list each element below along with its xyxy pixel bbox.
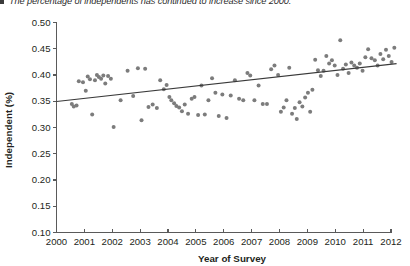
data-point (284, 98, 288, 102)
data-point (335, 73, 339, 77)
data-point (77, 79, 81, 83)
data-point (265, 102, 269, 106)
x-tick-label: 2008 (269, 236, 290, 247)
data-point (210, 76, 214, 80)
data-point (101, 74, 105, 78)
y-tick-label: 0.20 (32, 174, 51, 185)
data-point (373, 58, 377, 62)
data-point (390, 60, 394, 64)
data-point (369, 56, 373, 60)
data-point (241, 98, 245, 102)
data-point (183, 102, 187, 106)
x-tick-label: 2012 (380, 236, 401, 247)
data-point (358, 61, 362, 65)
y-axis-title: Independent (%) (3, 92, 14, 168)
data-point (378, 52, 382, 56)
data-point (225, 116, 229, 120)
data-point (203, 112, 207, 116)
data-point (298, 100, 302, 104)
y-tick-label: 0.25 (32, 148, 51, 159)
data-point (308, 110, 312, 114)
data-point (206, 98, 210, 102)
data-point (361, 69, 365, 73)
x-tick-label: 2000 (46, 236, 67, 247)
data-point (112, 125, 116, 129)
data-point (192, 95, 196, 99)
x-tick-label: 2009 (297, 236, 318, 247)
data-point (319, 74, 323, 78)
y-tick-label: 0.40 (32, 69, 51, 80)
x-axis-title: Year of Survey (198, 253, 267, 264)
data-point (126, 69, 130, 73)
data-point (75, 103, 79, 107)
data-point (196, 113, 200, 117)
data-point (269, 67, 273, 71)
data-point (146, 105, 150, 109)
data-point (290, 112, 294, 116)
data-point (93, 78, 97, 82)
data-point (140, 118, 144, 122)
data-point (186, 112, 190, 116)
x-tick-label: 2005 (185, 236, 206, 247)
x-tick-label: 2007 (241, 236, 262, 247)
data-point (136, 66, 140, 70)
data-point (151, 102, 155, 106)
data-point (306, 91, 310, 95)
data-point (88, 77, 92, 81)
data-point (119, 98, 123, 102)
y-axis-ticks: 0.100.150.200.250.300.350.400.450.50 (32, 17, 57, 238)
data-point (366, 47, 370, 51)
data-point (220, 92, 224, 96)
data-point (213, 91, 217, 95)
data-point (237, 97, 241, 101)
data-point (347, 71, 351, 75)
data-point (387, 54, 391, 58)
data-point (384, 48, 388, 52)
data-point (287, 66, 291, 70)
data-point (109, 77, 113, 81)
trend-line (57, 64, 397, 102)
data-point (180, 109, 184, 113)
data-point (310, 88, 314, 92)
data-point (158, 78, 162, 82)
data-point (155, 106, 159, 110)
data-point (392, 46, 396, 50)
data-point (261, 102, 265, 106)
data-point (338, 38, 342, 42)
x-tick-label: 2002 (102, 236, 123, 247)
data-point (349, 60, 353, 64)
data-point (344, 63, 348, 67)
data-point (324, 54, 328, 58)
x-tick-label: 2004 (157, 236, 179, 247)
data-point (279, 110, 283, 114)
y-tick-label: 0.45 (32, 43, 51, 54)
data-point (313, 58, 317, 62)
x-tick-label: 2001 (74, 236, 95, 247)
data-points (70, 38, 397, 129)
data-point (131, 94, 135, 98)
x-tick-label: 2010 (325, 236, 346, 247)
data-point (293, 106, 297, 110)
data-point (316, 68, 320, 72)
data-point (363, 55, 367, 59)
data-point (217, 114, 221, 118)
data-point (303, 96, 307, 100)
data-point (229, 93, 233, 97)
data-point (272, 64, 276, 68)
x-tick-label: 2011 (353, 236, 374, 247)
data-point (252, 98, 256, 102)
x-tick-label: 2006 (213, 236, 234, 247)
data-point (333, 64, 337, 68)
y-tick-label: 0.30 (32, 122, 51, 133)
y-tick-label: 0.50 (32, 17, 51, 28)
data-point (300, 105, 304, 109)
data-point (248, 74, 252, 78)
y-tick-label: 0.35 (32, 95, 51, 106)
data-point (282, 106, 286, 110)
data-point (257, 84, 261, 88)
data-point (84, 89, 88, 93)
data-point (81, 80, 85, 84)
data-point (295, 117, 299, 121)
scatter-chart: 0.100.150.200.250.300.350.400.450.50 200… (0, 0, 410, 266)
data-point (381, 57, 385, 61)
